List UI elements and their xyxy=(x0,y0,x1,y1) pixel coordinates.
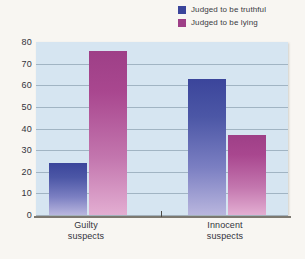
x-axis-label-line: Guilty xyxy=(44,220,128,231)
legend-label-lying: Judged to be lying xyxy=(191,18,258,28)
y-axis: 80706050403020100 xyxy=(0,42,32,215)
x-axis-line xyxy=(34,216,291,218)
bar-lying-guilty xyxy=(89,51,127,215)
bar-truthful-innocent xyxy=(188,79,226,215)
bar-group-container xyxy=(36,42,288,215)
bar-lying-innocent xyxy=(228,135,266,215)
x-axis-center-tick xyxy=(161,211,162,217)
y-axis-tick-label: 60 xyxy=(0,80,32,90)
bar-truthful-guilty xyxy=(49,163,87,215)
x-axis-label-innocent: Innocentsuspects xyxy=(183,220,267,242)
y-axis-tick-label: 50 xyxy=(0,102,32,112)
legend-label-truthful: Judged to be truthful xyxy=(191,5,266,15)
y-axis-tick-label: 10 xyxy=(0,188,32,198)
x-axis-label-guilty: Guiltysuspects xyxy=(44,220,128,242)
x-axis-label-line: suspects xyxy=(183,231,267,242)
y-axis-tick-label: 0 xyxy=(0,210,32,220)
y-axis-tick-label: 70 xyxy=(0,59,32,69)
legend-swatch-lying xyxy=(178,19,186,27)
legend-item-lying: Judged to be lying xyxy=(178,17,305,28)
x-axis-label-line: Innocent xyxy=(183,220,267,231)
legend-swatch-truthful xyxy=(178,6,186,14)
figure-caption xyxy=(18,246,293,258)
x-axis-label-line: suspects xyxy=(44,231,128,242)
y-axis-tick-label: 30 xyxy=(0,145,32,155)
y-axis-tick-label: 80 xyxy=(0,37,32,47)
legend-item-truthful: Judged to be truthful xyxy=(178,4,305,15)
y-axis-tick-label: 20 xyxy=(0,167,32,177)
y-axis-tick-label: 40 xyxy=(0,124,32,134)
chart-legend: Judged to be truthful Judged to be lying xyxy=(178,4,305,30)
chart-plot-area xyxy=(36,42,288,215)
